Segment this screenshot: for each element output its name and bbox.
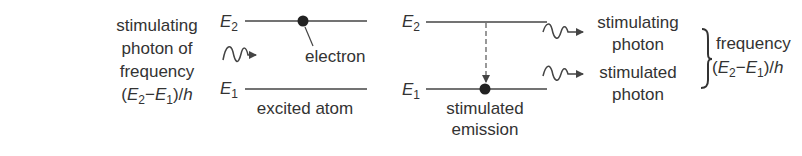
energy-subscript: 1 — [413, 88, 420, 102]
stimulating-photon-label: stimulating photon — [588, 12, 688, 56]
minus-sign: − — [736, 58, 746, 77]
energy-subscript: 2 — [413, 20, 420, 34]
stimulating-photon-label-line2: photon — [588, 34, 688, 56]
stimulated-photon-wave-icon — [543, 66, 583, 80]
incoming-photon-wave-icon — [223, 47, 256, 62]
stimulated-emission-caption: stimulated emission — [430, 98, 540, 140]
incoming-photon-label-line1: stimulating — [98, 14, 216, 37]
energy-symbol: E — [402, 80, 413, 99]
incoming-photon-frequency-formula: (E2−E1)/h — [98, 83, 216, 106]
energy-symbol: E — [127, 85, 138, 104]
stimulated-emission-caption-line2: emission — [430, 119, 540, 140]
outgoing-frequency-label-line1: frequency — [716, 32, 791, 56]
minus-sign: − — [145, 85, 155, 104]
paren-close-slash: )/ — [173, 85, 183, 104]
left-electron-dot — [298, 16, 309, 27]
paren-close-slash: )/ — [764, 58, 774, 77]
energy-subscript: 1 — [231, 87, 238, 101]
energy-subscript: 1 — [166, 93, 173, 107]
energy-symbol: E — [155, 85, 166, 104]
incoming-photon-label: stimulating photon of frequency (E2−E1)/… — [98, 14, 216, 106]
frequency-brace-icon — [701, 29, 712, 88]
energy-symbol: E — [220, 79, 231, 98]
energy-symbol: E — [718, 58, 729, 77]
energy-subscript: 2 — [231, 20, 238, 34]
energy-subscript: 1 — [757, 66, 764, 80]
energy-symbol: E — [220, 12, 231, 31]
right-upper-level-label: E2 — [402, 10, 420, 33]
outgoing-frequency-formula: (E2−E1)/h — [712, 56, 791, 80]
energy-symbol: E — [746, 58, 757, 77]
left-lower-level-label: E1 — [220, 77, 238, 100]
planck-constant-symbol: h — [183, 85, 192, 104]
energy-subscript: 2 — [138, 93, 145, 107]
planck-constant-symbol: h — [774, 58, 783, 77]
right-lower-level-label: E1 — [402, 78, 420, 101]
energy-symbol: E — [402, 12, 413, 31]
excited-atom-caption: excited atom — [240, 97, 370, 120]
incoming-photon-label-line3: frequency — [98, 60, 216, 83]
incoming-photon-label-line2: photon of — [98, 37, 216, 60]
right-electron-dot — [480, 84, 491, 95]
electron-pointer-line — [305, 27, 313, 46]
energy-subscript: 2 — [729, 66, 736, 80]
stimulating-photon-label-line1: stimulating — [588, 12, 688, 34]
electron-label: electron — [305, 45, 365, 68]
stimulated-photon-label-line2: photon — [588, 84, 688, 106]
stimulated-photon-label-line1: stimulated — [588, 62, 688, 84]
stimulated-photon-label: stimulated photon — [588, 62, 688, 106]
left-upper-level-label: E2 — [220, 10, 238, 33]
stimulating-photon-wave-icon — [543, 24, 583, 38]
stimulated-emission-caption-line1: stimulated — [430, 98, 540, 119]
outgoing-frequency-label: frequency (E2−E1)/h — [716, 32, 791, 80]
